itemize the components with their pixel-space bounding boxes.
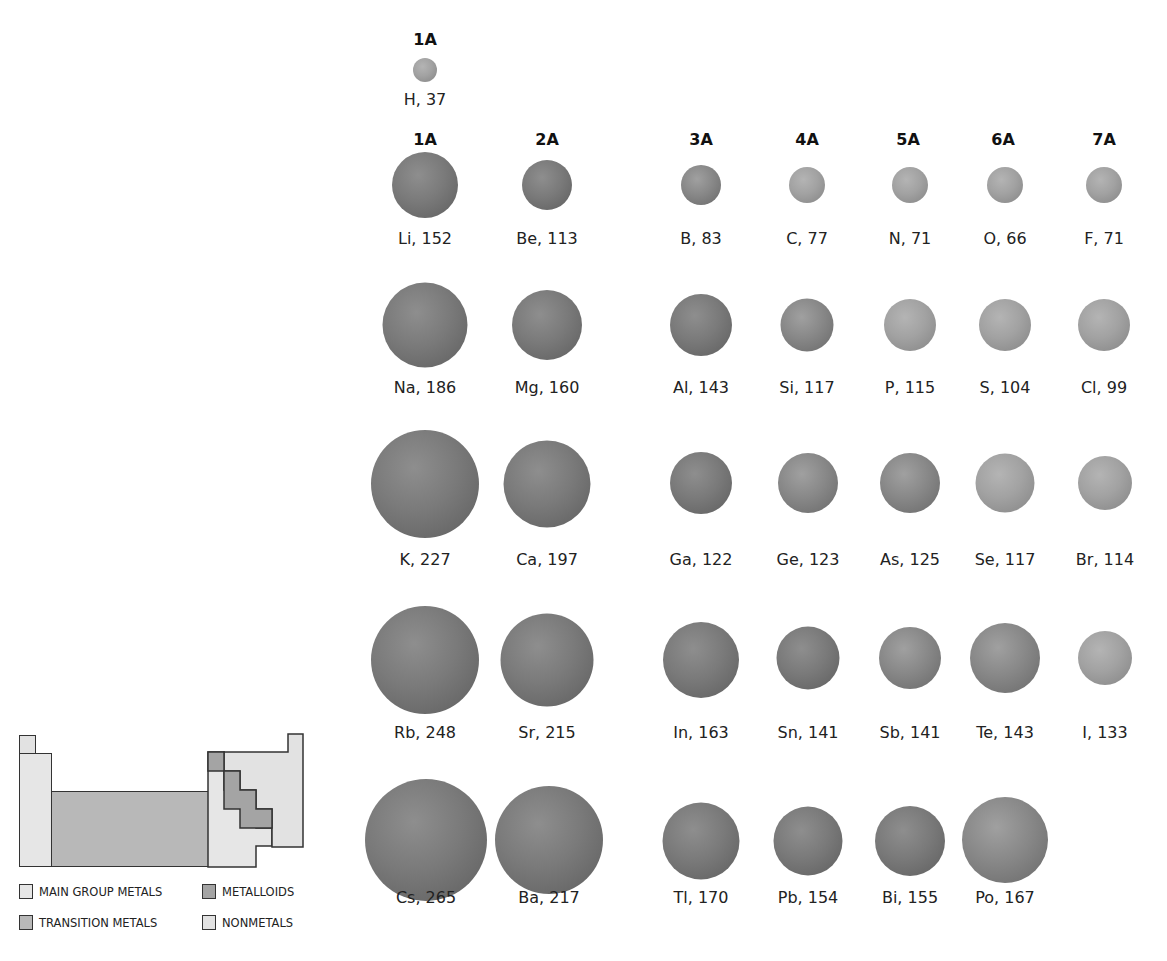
element-label-ga: Ga, 122 xyxy=(670,550,733,569)
element-label-cs: Cs, 265 xyxy=(396,888,456,907)
element-label-sr: Sr, 215 xyxy=(518,723,575,742)
sphere-sb-icon xyxy=(879,627,941,689)
element-label-in: In, 163 xyxy=(673,723,729,742)
pt-group1-column xyxy=(19,753,52,867)
pt-transition-block xyxy=(51,791,209,867)
element-label-n: N, 71 xyxy=(889,229,932,248)
sphere-po-icon xyxy=(962,797,1048,883)
group-header-7a: 7A xyxy=(1092,130,1116,149)
group-header-6a: 6A xyxy=(991,130,1015,149)
sphere-ba-icon xyxy=(495,786,603,894)
legend-label: METALLOIDS xyxy=(222,885,294,899)
element-label-li: Li, 152 xyxy=(398,229,452,248)
element-label-p: P, 115 xyxy=(885,378,935,397)
sphere-sn-icon xyxy=(777,627,840,690)
sphere-si-icon xyxy=(781,299,834,352)
sphere-mg-icon xyxy=(512,290,582,360)
element-label-pb: Pb, 154 xyxy=(778,888,839,907)
sphere-n-icon xyxy=(892,167,928,203)
element-label-b: B, 83 xyxy=(680,229,722,248)
sphere-pb-icon xyxy=(774,807,843,876)
sphere-sr-icon xyxy=(501,614,594,707)
legend-metalloids: METALLOIDS xyxy=(202,884,294,899)
legend-main-group-metals: MAIN GROUP METALS xyxy=(19,884,162,899)
element-label-h: H, 37 xyxy=(404,90,447,109)
sphere-b-icon xyxy=(681,165,721,205)
sphere-o-icon xyxy=(987,167,1023,203)
element-label-ca: Ca, 197 xyxy=(516,550,578,569)
sphere-be-icon xyxy=(522,160,572,210)
element-label-as: As, 125 xyxy=(880,550,940,569)
legend-nonmetals: NONMETALS xyxy=(202,915,293,930)
group-header-3a: 3A xyxy=(689,130,713,149)
element-label-sn: Sn, 141 xyxy=(777,723,838,742)
element-label-br: Br, 114 xyxy=(1076,550,1134,569)
element-label-c: C, 77 xyxy=(786,229,828,248)
sphere-in-icon xyxy=(663,622,739,698)
pt-p-block xyxy=(205,730,310,870)
element-label-cl: Cl, 99 xyxy=(1081,378,1127,397)
sphere-ca-icon xyxy=(504,441,591,528)
element-label-i: I, 133 xyxy=(1082,723,1127,742)
sphere-s-icon xyxy=(979,299,1031,351)
legend-label: NONMETALS xyxy=(222,916,293,930)
sphere-c-icon xyxy=(789,167,825,203)
sphere-as-icon xyxy=(880,453,940,513)
sphere-ge-icon xyxy=(778,453,838,513)
legend-label: TRANSITION METALS xyxy=(39,916,157,930)
group-header-4a: 4A xyxy=(795,130,819,149)
sphere-h-icon xyxy=(413,58,437,82)
sphere-li-icon xyxy=(392,152,458,218)
element-label-ba: Ba, 217 xyxy=(518,888,580,907)
element-label-se: Se, 117 xyxy=(975,550,1036,569)
sphere-cs-icon xyxy=(365,779,487,901)
legend-label: MAIN GROUP METALS xyxy=(39,885,162,899)
element-label-ge: Ge, 123 xyxy=(777,550,840,569)
group-header-2a: 2A xyxy=(535,130,559,149)
element-label-o: O, 66 xyxy=(983,229,1026,248)
element-label-sb: Sb, 141 xyxy=(879,723,940,742)
transition-metals-swatch-icon xyxy=(19,915,33,930)
element-label-f: F, 71 xyxy=(1084,229,1124,248)
sphere-tl-icon xyxy=(663,803,740,880)
metalloids-swatch-icon xyxy=(202,884,216,899)
sphere-br-icon xyxy=(1078,456,1132,510)
sphere-rb-icon xyxy=(371,606,479,714)
element-label-tl: Tl, 170 xyxy=(674,888,729,907)
element-label-bi: Bi, 155 xyxy=(882,888,938,907)
element-label-si: Si, 117 xyxy=(779,378,834,397)
hydrogen-group-header: 1A xyxy=(413,30,437,49)
element-label-na: Na, 186 xyxy=(394,378,456,397)
sphere-te-icon xyxy=(970,623,1040,693)
group-header-5a: 5A xyxy=(896,130,920,149)
element-label-te: Te, 143 xyxy=(976,723,1034,742)
sphere-f-icon xyxy=(1086,167,1122,203)
pt-hydrogen-cell xyxy=(19,735,36,754)
element-label-po: Po, 167 xyxy=(975,888,1035,907)
group-header-1a: 1A xyxy=(413,130,437,149)
element-label-k: K, 227 xyxy=(399,550,450,569)
sphere-cl-icon xyxy=(1078,299,1130,351)
element-label-mg: Mg, 160 xyxy=(515,378,580,397)
sphere-i-icon xyxy=(1078,631,1132,685)
sphere-p-icon xyxy=(884,299,936,351)
element-label-s: S, 104 xyxy=(980,378,1031,397)
sphere-bi-icon xyxy=(875,806,945,876)
element-label-be: Be, 113 xyxy=(516,229,578,248)
sphere-al-icon xyxy=(670,294,732,356)
element-label-al: Al, 143 xyxy=(673,378,729,397)
element-label-rb: Rb, 248 xyxy=(394,723,456,742)
sphere-ga-icon xyxy=(670,452,732,514)
sphere-na-icon xyxy=(383,283,468,368)
sphere-k-icon xyxy=(371,430,479,538)
legend-transition-metals: TRANSITION METALS xyxy=(19,915,157,930)
main-group-metals-swatch-icon xyxy=(19,884,33,899)
nonmetals-swatch-icon xyxy=(202,915,216,930)
sphere-se-icon xyxy=(976,454,1035,513)
